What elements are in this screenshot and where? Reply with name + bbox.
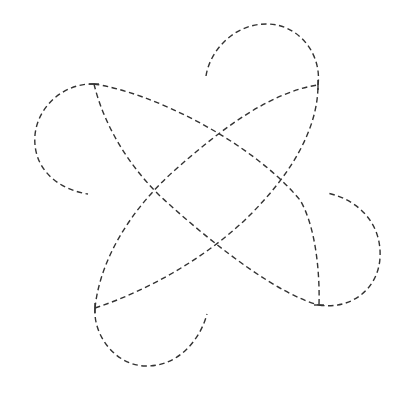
dashed-knot-figure: [0, 0, 407, 400]
bottom-curl-arc: [95, 308, 207, 366]
loop-b-upper-edge: [95, 85, 318, 308]
loop-a-lower-edge: [94, 84, 319, 305]
top-curl-arc: [206, 24, 318, 85]
diagram-canvas: [0, 0, 407, 400]
right-curl-arc: [319, 193, 380, 306]
loop-a-upper-edge: [94, 84, 319, 305]
left-curl-arc: [35, 84, 94, 194]
loop-b-lower-edge: [95, 85, 318, 308]
